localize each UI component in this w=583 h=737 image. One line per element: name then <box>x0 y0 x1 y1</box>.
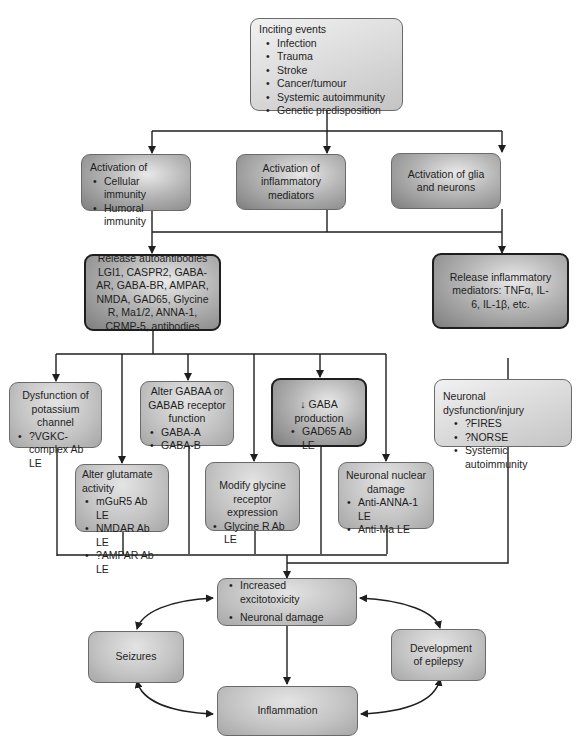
arrow-seizures-inflammation <box>137 681 213 714</box>
activation-glia-box: Activation of glia and neurons <box>391 153 501 209</box>
arrow-excitotoxicity-seizures <box>137 598 213 629</box>
potassium-channel-box: Dysfunction of potassium channel ?VGKC-c… <box>9 382 102 448</box>
glycine-box: Modify glycine receptor expression Glyci… <box>205 462 300 531</box>
activation-glia-text: Activation of glia and neurons <box>406 168 486 195</box>
excitotoxicity-box: Increased excitotoxicity Neuronal damage <box>217 578 357 626</box>
gaba-receptor-item: GABA-B <box>147 439 227 453</box>
inciting-item: Infection <box>263 37 394 51</box>
gaba-receptor-title: Alter GABAA or GABAB receptor function <box>147 385 227 426</box>
glutamate-item: mGuR5 Ab LE <box>82 495 162 522</box>
nuclear-item: Anti-ANNA-1 LE <box>344 496 428 523</box>
gaba-receptor-box: Alter GABAA or GABAB receptor function G… <box>140 381 234 446</box>
nuclear-damage-title: Neuronal nuclear damage <box>344 469 428 496</box>
immunity-item: Humoral immunity <box>90 202 182 229</box>
potassium-channel-title: Dysfunction of potassium channel <box>15 389 96 430</box>
gaba-production-item: GAD65 Ab LE <box>288 425 360 452</box>
release-autoantibodies-title: Release autoantibodies <box>94 252 211 266</box>
arrow-epilepsy-inflammation <box>361 679 440 714</box>
excitotoxicity-item: Increased excitotoxicity <box>226 579 348 606</box>
activation-inflammatory-text: Activation of inflammatory mediators <box>251 162 331 203</box>
activation-immunity-box: Activation of Cellular immunity Humoral … <box>81 154 191 211</box>
gaba-production-title: ↓ GABA production <box>278 398 360 425</box>
excitotoxicity-item: Neuronal damage <box>226 611 348 625</box>
neuronal-injury-item: ?FIRES <box>451 417 563 431</box>
glutamate-item: NMDAR Ab LE <box>82 522 162 549</box>
epilepsy-text: Development of epilepsy <box>410 642 467 669</box>
inciting-item: Systemic autoimmunity <box>263 91 394 105</box>
release-autoantibodies-list: LGI1, CASPR2, GABA-AR, GABA-BR, AMPAR, N… <box>94 266 211 334</box>
epilepsy-box: Development of epilepsy <box>391 629 486 681</box>
glycine-item: Glycine R Ab LE <box>210 520 295 547</box>
activation-inflammatory-box: Activation of inflammatory mediators <box>236 154 346 210</box>
neuronal-injury-title: Neuronal dysfunction/injury <box>443 390 563 417</box>
gaba-production-box: ↓ GABA production GAD65 Ab LE <box>271 378 367 447</box>
seizures-text: Seizures <box>89 650 183 664</box>
activation-immunity-title: Activation of <box>90 161 182 175</box>
glutamate-item: ?AMPAR Ab LE <box>82 549 162 576</box>
inciting-item: Cancer/tumour <box>263 77 394 91</box>
inciting-item: Trauma <box>263 50 394 64</box>
inflammation-text: Inflammation <box>218 704 357 718</box>
nuclear-item: Anti-Ma LE <box>344 523 428 537</box>
glycine-title: Modify glycine receptor expression <box>210 479 295 520</box>
gaba-receptor-item: GABA-A <box>147 426 227 440</box>
neuronal-injury-item: Systemic autoimmunity <box>451 444 563 471</box>
arrow-excitotoxicity-epilepsy <box>360 598 440 628</box>
seizures-box: Seizures <box>88 631 184 683</box>
glutamate-title: Alter glutamate activity <box>82 468 162 495</box>
immunity-item: Cellular immunity <box>90 175 182 202</box>
neuronal-injury-item: ?NORSE <box>451 431 563 445</box>
release-autoantibodies-box: Release autoantibodies LGI1, CASPR2, GAB… <box>84 254 221 331</box>
glutamate-box: Alter glutamate activity mGuR5 Ab LE NMD… <box>75 464 169 532</box>
neuronal-injury-box: Neuronal dysfunction/injury ?FIRES ?NORS… <box>434 379 572 447</box>
release-inflammatory-text: Release inflammatory mediators: TNFα, IL… <box>448 271 553 312</box>
inciting-item: Genetic predisposition <box>263 104 394 118</box>
nuclear-damage-box: Neuronal nuclear damage Anti-ANNA-1 LE A… <box>338 462 434 529</box>
inflammation-box: Inflammation <box>217 686 358 736</box>
inciting-events-box: Inciting events Infection Trauma Stroke … <box>250 18 403 111</box>
release-inflammatory-box: Release inflammatory mediators: TNFα, IL… <box>432 253 569 329</box>
inciting-item: Stroke <box>263 64 394 78</box>
inciting-events-title: Inciting events <box>259 23 394 37</box>
